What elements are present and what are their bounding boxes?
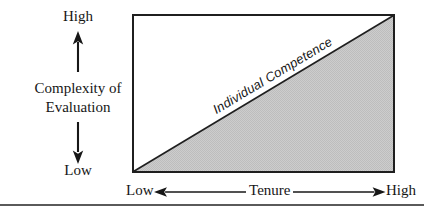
y-axis-low-label: Low <box>28 162 128 179</box>
arrow-right-icon <box>293 184 386 196</box>
arrow-left-icon <box>154 184 247 196</box>
y-axis-title-line-1: Complexity of <box>4 79 152 98</box>
arrow-down-icon <box>70 122 86 164</box>
y-axis-high-label: High <box>28 8 128 25</box>
y-axis-title: Complexity of Evaluation <box>4 79 152 117</box>
plot-area <box>132 14 395 173</box>
arrow-up-icon <box>70 31 86 72</box>
figure-canvas: High Complexity of Evaluation Low <box>0 0 424 214</box>
x-axis-low-label: Low <box>126 182 154 199</box>
x-axis-high-label: High <box>386 182 416 199</box>
y-axis-title-line-2: Evaluation <box>4 98 152 117</box>
footer-divider <box>0 204 424 206</box>
x-axis-title: Tenure <box>246 182 293 199</box>
x-axis: Low Tenure High <box>126 180 416 200</box>
